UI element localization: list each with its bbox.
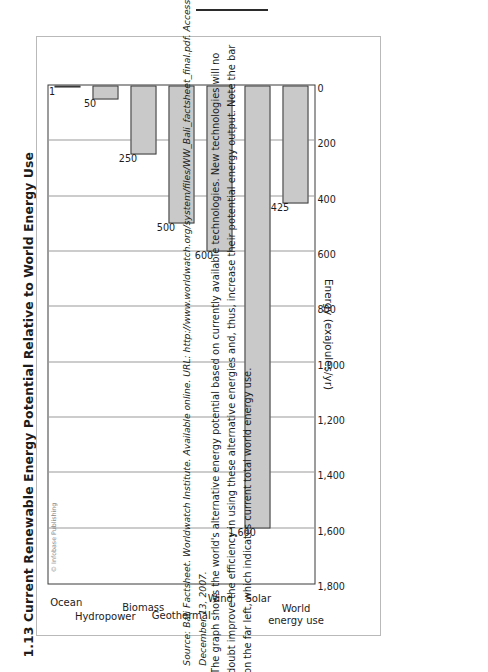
bar-row: 250 <box>131 86 157 584</box>
bar <box>283 86 309 204</box>
bar <box>93 86 119 100</box>
x-tick-label: 600 <box>318 249 336 260</box>
bar-row: 1 <box>55 86 81 584</box>
bar-value-label: 1 <box>49 86 55 97</box>
category-label: Worldenergy use <box>283 587 309 627</box>
category-label-text: Worldenergy use <box>268 603 324 626</box>
x-tick-label: 200 <box>318 138 336 149</box>
bar-row: 425 <box>283 86 309 584</box>
bar <box>131 86 157 155</box>
bar-value-label: 500 <box>157 222 175 233</box>
category-label-text: Ocean <box>51 597 83 609</box>
rotated-page-canvas: 1.13 Current Renewable Energy Potential … <box>0 0 488 672</box>
x-tick-label: 0 <box>318 83 324 94</box>
category-label: Hydropower <box>92 587 118 627</box>
source-line-1: Source: Bali Factsheet. Worldwatch Insti… <box>179 26 195 666</box>
bar-row: 50 <box>93 86 119 584</box>
x-tick-label: 1,400 <box>318 470 345 481</box>
x-tick-label: 1,800 <box>318 581 345 592</box>
caption-line-3: on the far left, which indicates current… <box>240 34 256 672</box>
bar-value-label: 425 <box>271 202 289 213</box>
caption-line-2: doubt improve the efficiency in using th… <box>224 34 240 672</box>
bar-value-label: 50 <box>84 98 96 109</box>
figure-caption: The graph shows the world's alternative … <box>208 34 256 672</box>
x-tick-label: 1,200 <box>318 415 345 426</box>
bar <box>55 86 81 88</box>
figure-source: Source: Bali Factsheet. Worldwatch Insti… <box>179 26 210 666</box>
x-tick-label: 1,600 <box>318 525 345 536</box>
figure-title: 1.13 Current Renewable Energy Potential … <box>21 18 36 658</box>
x-tick-label: 1,000 <box>318 359 345 370</box>
bar-value-label: 250 <box>119 153 137 164</box>
source-line-2: December 13, 2007. <box>195 26 211 666</box>
copyright-note: © Infobase Publishing <box>50 503 57 572</box>
x-tick-label: 400 <box>318 193 336 204</box>
x-tick-label: 800 <box>318 304 336 315</box>
x-axis-tick-labels: 02004006008001,0001,2001,4001,6001,800 <box>316 85 368 585</box>
